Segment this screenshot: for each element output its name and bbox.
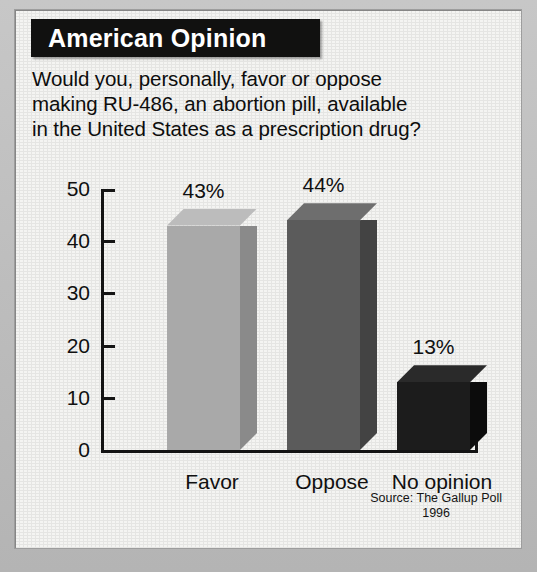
bar-value-label-oppose: 44% (302, 173, 344, 197)
source-attribution: Source: The Gallup Poll 1996 (370, 491, 502, 521)
bar-value-label-favor: 43% (182, 179, 224, 203)
bar-top-face (167, 209, 257, 226)
poster-frame: American Opinion Would you, personally, … (0, 0, 537, 572)
source-line-2: 1996 (370, 506, 502, 521)
bar-front-face (287, 220, 360, 450)
poll-card: American Opinion Would you, personally, … (14, 9, 522, 549)
bar-side-face (470, 382, 487, 450)
y-axis-label-0: 0 (78, 438, 90, 462)
source-line-1: Source: The Gallup Poll (370, 491, 502, 506)
y-axis-label-10: 10 (67, 386, 90, 410)
y-axis-tick-30 (104, 292, 115, 295)
y-axis-label-20: 20 (67, 334, 90, 358)
bar-front-face (397, 382, 470, 450)
bar-side-face (360, 220, 377, 450)
bar-no-opinion: 13% (397, 365, 470, 450)
y-axis-tick-20 (104, 345, 115, 348)
y-axis-tick-40 (104, 240, 115, 243)
bar-top-face (287, 203, 377, 220)
bar-front-face (167, 226, 240, 450)
y-axis-top-cap (101, 189, 115, 192)
y-axis-line (101, 189, 104, 450)
category-label-favor: Favor (185, 470, 239, 494)
plot-area: 01020304050 43%44%13% FavorOpposeNo opin… (101, 189, 478, 450)
y-axis-label-40: 40 (67, 229, 90, 253)
x-axis-line (101, 450, 478, 453)
bar-top-face (397, 365, 487, 382)
bar-favor: 43% (167, 209, 240, 450)
bar-oppose: 44% (287, 203, 360, 450)
bar-chart: 01020304050 43%44%13% FavorOpposeNo opin… (15, 10, 522, 549)
y-axis-label-50: 50 (67, 177, 90, 201)
category-label-oppose: Oppose (295, 470, 369, 494)
bar-value-label-no-opinion: 13% (412, 335, 454, 359)
y-axis-tick-10 (104, 397, 115, 400)
bar-side-face (240, 226, 257, 450)
x-axis-left-cap (101, 439, 104, 453)
y-axis-label-30: 30 (67, 281, 90, 305)
